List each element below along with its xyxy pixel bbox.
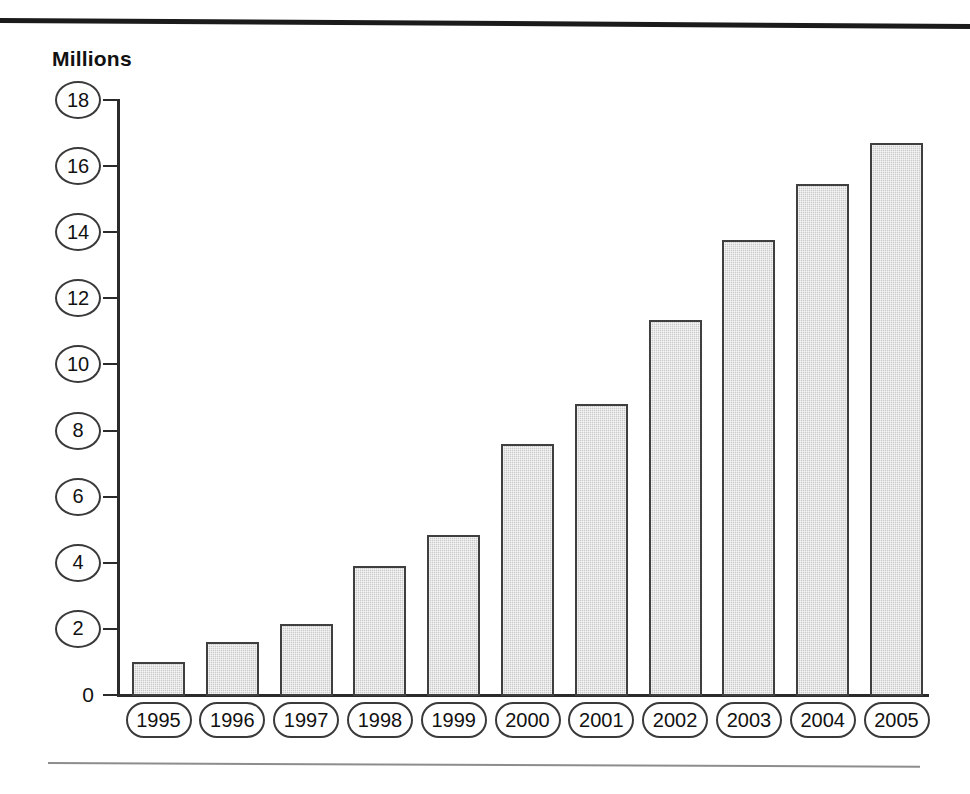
x-axis-label: 2001 <box>568 702 634 738</box>
y-axis-label: 10 <box>55 345 101 383</box>
bar <box>280 624 333 696</box>
y-axis-tick <box>103 628 120 630</box>
x-axis-label: 2003 <box>716 702 782 738</box>
y-axis-tick <box>103 430 120 432</box>
y-axis-tick <box>103 363 120 365</box>
y-axis-label: 2 <box>55 610 101 648</box>
bar <box>427 535 480 696</box>
y-axis-tick <box>103 297 120 299</box>
x-axis-label: 1999 <box>421 702 487 738</box>
x-axis-label: 2004 <box>790 702 856 738</box>
x-axis-label: 1996 <box>199 702 265 738</box>
y-axis-tick <box>103 694 120 696</box>
x-axis-label: 2000 <box>495 702 561 738</box>
x-axis-label: 1995 <box>126 702 192 738</box>
y-axis-label: 4 <box>55 544 101 582</box>
y-axis-label: 6 <box>55 478 101 516</box>
chart-figure: Millions 024681012141618 199519961997199… <box>0 0 970 794</box>
y-axis-label: 8 <box>55 412 101 450</box>
x-axis-label: 2002 <box>642 702 708 738</box>
bar <box>796 184 849 696</box>
y-axis-tick <box>103 99 120 101</box>
bar <box>870 143 923 696</box>
bar <box>649 320 702 696</box>
x-axis-label: 1998 <box>347 702 413 738</box>
bar <box>206 642 259 696</box>
bar <box>722 240 775 696</box>
y-axis-label: 0 <box>76 682 100 708</box>
y-axis-tick <box>103 562 120 564</box>
y-axis-tick <box>103 496 120 498</box>
y-axis-line <box>117 99 120 697</box>
y-axis-label: 16 <box>55 147 101 185</box>
plot-area: 024681012141618 199519961997199819992000… <box>0 0 970 794</box>
y-axis-tick <box>103 231 120 233</box>
x-axis-label: 1997 <box>273 702 339 738</box>
y-axis-label: 14 <box>55 213 101 251</box>
y-axis-tick <box>103 165 120 167</box>
y-axis-label: 18 <box>55 81 101 119</box>
bar <box>353 566 406 696</box>
bar <box>501 444 554 696</box>
bar <box>575 404 628 696</box>
y-axis-label: 12 <box>55 279 101 317</box>
x-axis-label: 2005 <box>864 702 930 738</box>
bar <box>132 662 185 696</box>
